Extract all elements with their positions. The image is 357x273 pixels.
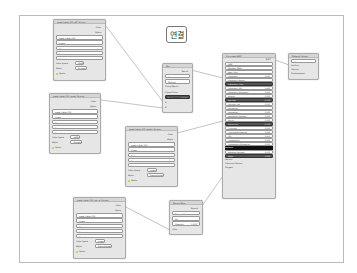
material-output-node[interactable]: Material Output All Surface Volume Displ… [288,53,319,80]
color-space-select[interactable]: Linear [147,168,157,172]
interpolation-select[interactable]: Linear [128,147,175,151]
node-header[interactable]: Normal Map [170,201,202,205]
input-b[interactable]: B [165,105,190,109]
node-header[interactable]: wood_table_001_rough_2k.png [50,94,100,98]
output-alpha[interactable]: Alpha [52,104,98,108]
bsdf-input-row[interactable]: Subsurface Radius [225,78,273,82]
output-bsdf[interactable]: BSDF [225,58,273,62]
output-normal[interactable]: Normal [172,206,200,210]
color-space-select[interactable]: Linear [95,239,105,243]
image-texture-node-normal[interactable]: wood_table_001_nor_gl_2k.png Color Alpha… [73,197,126,259]
input-tangent[interactable]: Tangent [225,166,273,170]
socket-icon[interactable] [76,251,78,253]
output-color[interactable]: Color [76,203,123,207]
clamp-result-checkbox[interactable]: Clamp Result [165,84,190,88]
principled-bsdf-node[interactable]: Principled BSDF BSDF GGX Random Walk Bas… [222,53,276,199]
input-displacement[interactable]: Displacement [291,72,316,76]
bsdf-input-row[interactable]: Clearcoat Roughness0.030 [225,130,273,134]
bsdf-input-row[interactable]: Anisotropic Rotation0.000 [225,114,273,118]
link-bsdf-to-output [275,60,289,65]
alpha-select[interactable]: Straight [75,66,87,70]
subsurface-method-select[interactable]: Random Walk [225,66,273,70]
source-select[interactable]: Single Image [128,163,175,167]
image-texture-node-diffuse[interactable]: wood_table_001_diff_2k.png Color Alpha w… [53,19,106,81]
image-texture-node-height[interactable]: wood_table_001_height_2k.png Color Alpha… [125,126,178,187]
bsdf-input-row[interactable]: Subsurface IOR1.400 [225,86,273,90]
input-a[interactable]: A [165,100,190,104]
node-header[interactable]: Material Output [289,54,318,58]
socket-icon[interactable] [128,180,130,182]
projection-select[interactable]: Flat [76,224,123,228]
input-color[interactable]: Color [172,227,200,231]
clamp-factor-checkbox[interactable]: Clamp Factor [165,90,190,94]
bsdf-input-row[interactable]: Base Color [225,70,273,74]
projection-select[interactable]: Flat [52,120,98,124]
output-color[interactable]: Color [128,132,175,136]
node-header[interactable]: wood_table_001_nor_gl_2k.png [74,198,125,202]
color-space-select[interactable]: sRGB [70,135,79,139]
color-space-select[interactable]: sRGB [75,61,84,65]
source-select[interactable]: Single Image [76,234,123,238]
socket-icon[interactable] [56,73,58,75]
data-type-select[interactable]: Color [165,74,190,78]
bsdf-input-row[interactable]: Subsurface Color [225,82,273,86]
node-header[interactable]: Mix [163,64,192,68]
bsdf-input-row[interactable]: Alpha1.000 [225,154,273,158]
interpolation-select[interactable]: Linear [76,218,123,222]
bsdf-input-row[interactable]: Specular Tint0.000 [225,102,273,106]
bsdf-input-row[interactable]: Transmission0.000 [225,138,273,142]
image-selector[interactable]: wood_table_001 [76,213,123,217]
output-alpha[interactable]: Alpha [128,137,175,141]
image-selector[interactable]: wood_table_001 [52,109,98,113]
extension-select[interactable]: Repeat [52,125,98,129]
socket-icon[interactable] [52,147,54,149]
source-select[interactable]: Single Image [52,130,98,134]
row-label: Sheen [228,119,234,121]
output-alpha[interactable]: Alpha [56,30,103,34]
node-header[interactable]: wood_table_001_height_2k.png [126,127,177,131]
bsdf-input-row[interactable]: Roughness [225,106,273,110]
image-selector[interactable]: wood_table_001 [128,142,175,146]
bsdf-input-row[interactable]: Specular0.500 [225,98,273,102]
extension-select[interactable]: Repeat [56,51,103,55]
bsdf-input-row[interactable]: Emission Strength1.000 [225,150,273,154]
factor-slider[interactable]: Factor0.500 [165,95,190,99]
bsdf-input-row[interactable]: Transmission Roughness0.000 [225,142,273,146]
distribution-select[interactable]: GGX [225,62,273,66]
extension-select[interactable]: Repeat [128,158,175,162]
bsdf-input-row[interactable]: Subsurface Anisotropy0.000 [225,90,273,94]
image-selector[interactable]: wood_table_001 [56,35,103,39]
output-alpha[interactable]: Alpha [76,208,123,212]
uv-map-select[interactable]: UV [172,216,200,220]
extension-select[interactable]: Repeat [76,229,123,233]
bsdf-input-row[interactable]: Anisotropic0.000 [225,110,273,114]
source-select[interactable]: Single Image [56,56,103,60]
row-label: Specular Tint [228,103,240,105]
output-color[interactable]: Color [52,99,98,103]
alpha-select[interactable]: Premultiplied [95,244,112,248]
node-header[interactable]: wood_table_001_diff_2k.png [54,20,105,24]
bsdf-input-row[interactable]: Subsurface0.000 [225,74,273,78]
bsdf-input-row[interactable]: Emission [225,146,273,150]
image-texture-node-rough[interactable]: wood_table_001_rough_2k.png Color Alpha … [49,93,101,154]
normal-map-node[interactable]: Normal Map Normal Tangent Space UV Stren… [169,200,203,235]
interpolation-select[interactable]: Linear [52,114,98,118]
space-select[interactable]: Tangent Space [172,211,200,215]
bsdf-input-row[interactable]: Metallic0.000 [225,94,273,98]
output-result[interactable]: Result [165,69,190,73]
bsdf-input-row[interactable]: IOR1.450 [225,134,273,138]
bsdf-input-row[interactable]: Sheen Tint0.500 [225,122,273,126]
mix-node[interactable]: Mix Result Color Multiply Clamp Result C… [162,63,193,113]
output-color[interactable]: Color [56,25,103,29]
bsdf-input-row[interactable]: Sheen0.000 [225,118,273,122]
projection-select[interactable]: Flat [56,46,103,50]
projection-select[interactable]: Flat [128,153,175,157]
page-title: 연결 [166,26,187,43]
interpolation-select[interactable]: Linear [56,40,103,44]
strength-field[interactable]: Strength1.000 [172,221,200,225]
alpha-select[interactable]: Premultiplied [147,173,164,177]
alpha-select[interactable]: Straight [70,140,82,144]
bsdf-input-row[interactable]: Clearcoat0.000 [225,126,273,130]
blend-mode-select[interactable]: Multiply [165,79,190,83]
target-select[interactable]: All [291,59,316,63]
